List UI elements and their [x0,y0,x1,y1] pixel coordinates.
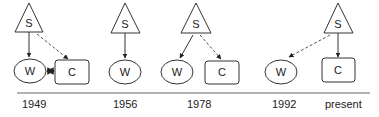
s-label: S [334,18,341,30]
year-label-1949: 1949 [22,98,46,110]
w-label: W [172,66,183,78]
panel-1956: S W [109,3,141,84]
edge-s-c-dashed [37,34,68,59]
s-label: S [192,18,199,30]
edge-s-w-dashed [289,35,330,57]
c-label: C [334,64,342,76]
s-label: S [25,17,32,29]
edge-s-c-dashed [200,35,221,59]
diagram-svg: S W C S W S W C [0,0,379,117]
panel-1978: S W C [161,3,239,84]
edge-s-w [180,35,193,58]
year-label-1992: 1992 [272,98,296,110]
year-label-1978: 1978 [187,98,211,110]
w-label: W [120,66,131,78]
w-label: W [276,66,287,78]
panel-1992-present: S W C [265,3,355,84]
panel-1949: S W C [14,3,89,84]
year-label-present: present [325,98,362,110]
timeline-diagram: S W C S W S W C [0,0,379,117]
year-label-1956: 1956 [113,98,137,110]
c-label: C [218,66,226,78]
s-label: S [121,18,128,30]
w-label: W [25,65,36,77]
c-label: C [68,66,76,78]
